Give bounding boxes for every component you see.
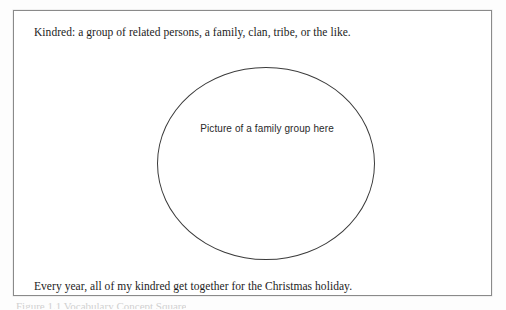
picture-placeholder-caption: Picture of a family group here — [158, 123, 376, 135]
example-sentence-text: Every year, all of my kindred get togeth… — [34, 279, 352, 293]
definition-text: Kindred: a group of related persons, a f… — [34, 25, 351, 39]
picture-placeholder-ellipse: Picture of a family group here — [157, 67, 375, 260]
page-canvas: Kindred: a group of related persons, a f… — [0, 0, 506, 310]
figure-caption-clipped: Figure 1.1 Vocabulary Concept Square — [16, 300, 186, 309]
worksheet-box: Kindred: a group of related persons, a f… — [13, 10, 492, 296]
